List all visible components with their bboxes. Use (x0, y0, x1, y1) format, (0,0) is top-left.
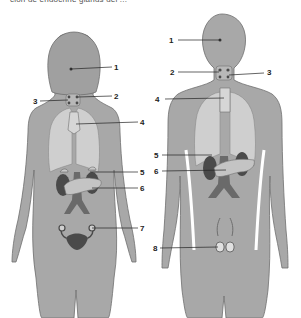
female-head (48, 32, 100, 95)
male-label-1: 1 (169, 36, 174, 45)
male-figure: 1 2 3 4 5 6 8 (153, 14, 288, 318)
male-thymus (220, 88, 230, 112)
female-ovary-left (59, 225, 65, 231)
male-label-6: 6 (154, 167, 159, 176)
female-figure: 1 2 3 4 5 6 7 (12, 32, 145, 318)
male-testis-right (226, 242, 234, 252)
male-label-3: 3 (267, 68, 272, 77)
female-label-4: 4 (140, 118, 145, 127)
female-label-6: 6 (140, 184, 145, 193)
female-thyroid (66, 94, 80, 106)
endocrine-diagram: 1 2 3 4 5 6 7 (0, 0, 301, 318)
male-label-4: 4 (155, 95, 160, 104)
male-thyroid (216, 66, 232, 80)
female-label-1: 1 (114, 63, 119, 72)
male-label-2: 2 (170, 68, 175, 77)
female-label-2: 2 (114, 92, 119, 101)
female-thymus (68, 112, 80, 134)
female-label-7: 7 (140, 224, 145, 233)
female-label-5: 5 (140, 168, 145, 177)
male-label-8: 8 (153, 244, 158, 253)
female-label-3: 3 (33, 97, 38, 106)
male-label-5: 5 (154, 151, 159, 160)
